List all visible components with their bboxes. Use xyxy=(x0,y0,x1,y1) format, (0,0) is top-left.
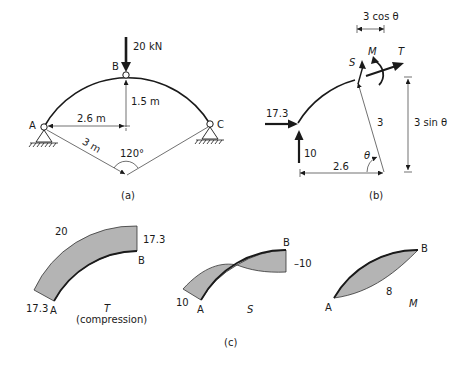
shear-label: S xyxy=(349,57,356,68)
moment-diagram-fill xyxy=(334,250,418,298)
shear-node-b: B xyxy=(283,237,290,248)
moment-symbol: M xyxy=(409,298,418,309)
thrust-arrow-icon xyxy=(392,62,404,71)
figure-b-free-body: 3 cos θ S M T 17.3 10 3 3 sin θ θ 2.6 (b… xyxy=(265,11,447,201)
moment-node-b: B xyxy=(421,243,428,254)
figure-a-arch: 20 kN B A C 1.5 m 2.6 m 3 m 120° (a) xyxy=(29,37,224,201)
node-c-label: C xyxy=(217,119,224,130)
pin-support-a-icon xyxy=(29,130,58,147)
moment-node-a: A xyxy=(325,302,332,313)
thrust-diagram-fill xyxy=(34,226,137,301)
shear-diagram: B –10 10 A S xyxy=(176,237,312,315)
radius-label-b: 3 xyxy=(377,117,383,128)
caption-c: (c) xyxy=(224,337,237,348)
load-arrow-icon xyxy=(121,62,131,72)
moment-label: M xyxy=(368,46,377,57)
moment-mid-value: 8 xyxy=(386,286,392,297)
three-hinged-arch-figure: 20 kN B A C 1.5 m 2.6 m 3 m 120° (a) xyxy=(0,0,461,368)
shear-a-value: 10 xyxy=(176,297,189,308)
load-label: 20 kN xyxy=(133,41,162,52)
thrust-node-b: B xyxy=(138,255,145,266)
shear-symbol: S xyxy=(247,304,254,315)
vertical-reaction-arrow-icon xyxy=(295,130,304,140)
node-a-label: A xyxy=(29,120,36,131)
horizontal-reaction-arrow-icon xyxy=(288,120,298,129)
thrust-node-a: A xyxy=(50,305,57,316)
angle-label: 120° xyxy=(120,148,144,159)
hinge-b-icon xyxy=(123,72,129,78)
caption-a: (a) xyxy=(121,190,135,201)
theta-label: θ xyxy=(364,150,370,161)
thrust-a-value: 17.3 xyxy=(26,303,48,314)
thrust-symbol: T xyxy=(104,303,111,314)
node-b-label: B xyxy=(112,61,119,72)
thrust-top-value: 20 xyxy=(55,226,68,237)
sin-dim-label: 3 sin θ xyxy=(414,117,447,128)
thrust-b-value: 17.3 xyxy=(143,234,165,245)
radius-label: 3 m xyxy=(81,136,103,155)
figure-c-diagrams: 20 17.3 B 17.3 A T (compression) B –10 1… xyxy=(26,226,428,348)
shear-b-value: –10 xyxy=(294,258,312,269)
thrust-label: T xyxy=(398,46,405,57)
vertical-reaction-label: 10 xyxy=(304,148,317,159)
thrust-diagram: 20 17.3 B 17.3 A T (compression) xyxy=(26,226,165,325)
arch-curve xyxy=(44,78,210,127)
shear-arrow-icon xyxy=(359,60,366,69)
shear-diagram-positive-lobe xyxy=(183,264,237,300)
angle-arc xyxy=(114,161,138,168)
moment-diagram: B 8 A M xyxy=(325,243,428,313)
shear-arrow-shaft xyxy=(358,66,363,84)
base-dim-label: 2.6 xyxy=(333,161,349,172)
cos-dim-label: 3 cos θ xyxy=(363,11,399,22)
arch-segment xyxy=(298,80,355,123)
horizontal-reaction-label: 17.3 xyxy=(266,108,288,119)
shear-node-a: A xyxy=(197,304,204,315)
thrust-note: (compression) xyxy=(76,314,147,325)
caption-b: (b) xyxy=(369,190,383,201)
half-span-label: 2.6 m xyxy=(77,113,106,124)
rise-label: 1.5 m xyxy=(131,96,160,107)
